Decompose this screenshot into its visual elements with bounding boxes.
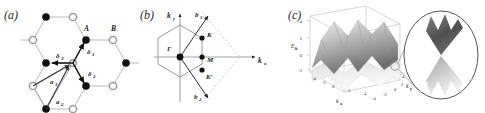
k-prime-point [199, 67, 204, 72]
a2-label: a 2 [56, 98, 64, 107]
delta-2-label: δ 2 [88, 70, 96, 79]
lattice-vectors [33, 65, 69, 109]
sublattice-a-label: A [83, 24, 89, 33]
ky-axis-label: k y [167, 11, 176, 21]
brillouin-zone-svg: Γ K M K′ b 1 b 2 k x k y [140, 0, 300, 113]
svg-text:b: b [194, 93, 198, 101]
energy-axis-label: E k [290, 43, 298, 51]
panel-c-energy-bands: 4 2 0 -2 E k -4 -2 0 2 4 k x 4 2 0 -2 [288, 0, 485, 113]
k-point [199, 35, 204, 40]
panel-a-label: (a) [4, 8, 18, 23]
k-point-label: K [206, 31, 213, 39]
delta-vectors [52, 43, 84, 83]
svg-text:a: a [56, 98, 60, 106]
m-point-label: M [206, 56, 214, 64]
energy-tick-2: 2 [300, 36, 303, 41]
svg-text:k: k [336, 98, 339, 104]
svg-text:k: k [258, 56, 262, 65]
svg-text:1: 1 [200, 15, 203, 20]
panel-b-label: (b) [140, 8, 154, 23]
svg-text:2: 2 [60, 102, 64, 107]
ky-axis-label-3d: k y [406, 83, 413, 91]
svg-text:1: 1 [92, 52, 95, 57]
graphene-figure: A B δ 1 δ 2 δ 3 a 1 a 2 [0, 0, 485, 113]
svg-text:δ: δ [87, 48, 91, 56]
svg-text:x: x [339, 101, 343, 106]
svg-text:y: y [172, 16, 176, 21]
panel-b-brillouin-zone: Γ K M K′ b 1 b 2 k x k y (b) [140, 0, 300, 113]
svg-text:b: b [195, 11, 199, 19]
dirac-cone-inset [404, 11, 478, 99]
k-axes [154, 14, 255, 102]
energy-tick-neg2: -2 [298, 68, 303, 73]
ky-tick-neg2: -2 [383, 92, 388, 97]
svg-text:k: k [406, 83, 409, 89]
svg-text:y: y [409, 86, 413, 91]
svg-text:x: x [263, 61, 267, 66]
svg-text:δ: δ [56, 52, 60, 60]
gamma-point [177, 54, 184, 61]
sublattice-b-label: B [110, 24, 116, 33]
svg-text:2: 2 [198, 97, 202, 102]
delta-1-label: δ 1 [87, 48, 95, 57]
ky-tick-4: 4 [402, 74, 405, 79]
ky-tick-neg4: -4 [372, 96, 377, 101]
svg-text:3: 3 [60, 56, 64, 61]
delta-2-arrow [73, 63, 84, 83]
b1-label: b 1 [195, 11, 203, 20]
m-point [199, 54, 204, 59]
svg-text:1: 1 [55, 82, 58, 87]
svg-text:k: k [167, 11, 171, 20]
energy-tick-0: 0 [300, 53, 303, 58]
b2-arrow [180, 57, 208, 98]
a1-label: a 1 [50, 78, 58, 87]
svg-text:k: k [295, 46, 298, 51]
kx-tick-4: 4 [364, 91, 367, 96]
honeycomb-lattice-svg: A B δ 1 δ 2 δ 3 a 1 a 2 [0, 0, 150, 113]
energy-bands-svg: 4 2 0 -2 E k -4 -2 0 2 4 k x 4 2 0 -2 [288, 0, 485, 113]
svg-text:a: a [50, 78, 54, 86]
ky-tick-0: 0 [394, 87, 397, 92]
delta-3-label: δ 3 [56, 52, 64, 61]
svg-text:δ: δ [88, 70, 92, 78]
delta-1-arrow [73, 43, 84, 63]
b2-label: b 2 [194, 93, 202, 102]
panel-c-label: (c) [288, 8, 301, 23]
k-prime-point-label: K′ [205, 73, 213, 81]
energy-axis-ticks [307, 21, 310, 70]
panel-a-honeycomb-lattice: A B δ 1 δ 2 δ 3 a 1 a 2 [0, 0, 150, 113]
kx-axis-label: k x [258, 56, 267, 66]
kx-axis-label-3d: k x [336, 98, 343, 106]
ky-tick-2: 2 [401, 82, 404, 87]
kx-tick-neg2: -2 [322, 80, 327, 85]
gamma-label: Γ [166, 45, 172, 53]
svg-text:2: 2 [92, 74, 96, 79]
